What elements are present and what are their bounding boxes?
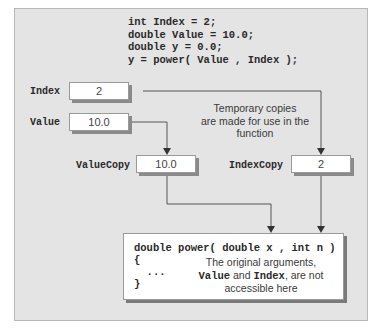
- function-note: The original arguments, Value and Index,…: [186, 256, 336, 295]
- index-box: 2: [69, 82, 129, 100]
- function-box: double power( double x , int n ) { ...} …: [123, 233, 344, 300]
- value-label: Value: [30, 117, 60, 128]
- arrowhead-icon: [317, 148, 325, 155]
- arrowhead-icon: [163, 148, 171, 155]
- arrowhead-icon: [317, 226, 325, 233]
- function-signature: double power( double x , int n ): [134, 242, 336, 254]
- index-label: Index: [30, 86, 60, 97]
- valuecopy-box: 10.0: [136, 155, 196, 173]
- function-body: { ...}: [134, 254, 166, 290]
- value-box: 10.0: [69, 113, 129, 131]
- copies-note: Temporary copies are made for use in the…: [180, 102, 330, 140]
- valuecopy-label: ValueCopy: [76, 160, 130, 171]
- indexcopy-box: 2: [291, 155, 351, 173]
- indexcopy-label: IndexCopy: [229, 160, 283, 171]
- arrowhead-icon: [267, 226, 275, 233]
